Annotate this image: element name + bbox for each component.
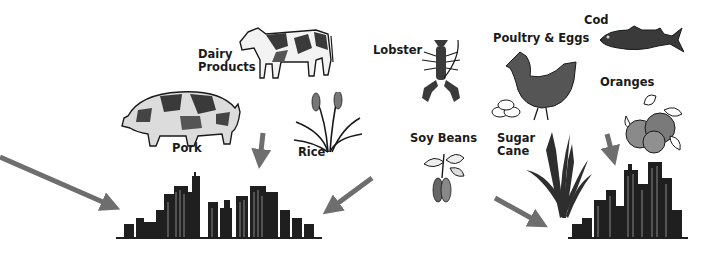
diagram-canvas: Dairy Products Pork Rice (0, 0, 726, 257)
label-poultry-eggs: Poultry & Eggs (493, 32, 589, 45)
label-dairy-line2: Products (198, 61, 256, 74)
arrow-oranges-to-city (607, 134, 613, 157)
pig-icon (120, 88, 245, 148)
label-soy-beans: Soy Beans (410, 132, 477, 145)
label-lobster: Lobster (373, 44, 422, 57)
soybean-plant-icon (420, 150, 468, 206)
city-skyline-right-icon (568, 160, 688, 242)
arrow-pork-to-city (260, 133, 263, 160)
label-dairy: Dairy Products (198, 48, 256, 74)
city-skyline-left-icon (116, 172, 322, 242)
label-oranges: Oranges (600, 76, 654, 89)
arrow-rice-to-city (330, 178, 372, 209)
oranges-icon (620, 92, 686, 154)
hen-icon (488, 50, 580, 122)
arrow-left-incoming (0, 157, 112, 206)
fish-icon (598, 24, 684, 56)
label-rice: Rice (298, 146, 325, 159)
lobster-icon (418, 38, 464, 104)
label-pork: Pork (172, 142, 202, 155)
